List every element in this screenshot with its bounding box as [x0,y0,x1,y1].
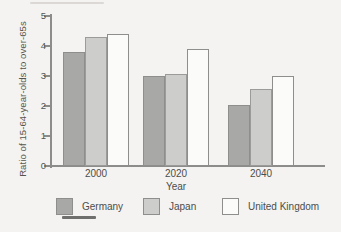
legend-swatch-germany [56,198,73,215]
x-axis-label: Year [154,181,198,192]
bar-germany-2020 [143,76,165,166]
bar-japan-2020 [165,74,187,166]
legend-swatch-japan [143,198,160,215]
bar-japan-2040 [250,89,272,166]
y-tick-label: 3 [28,71,46,81]
y-tick-label: 4 [28,41,46,51]
bar-united-kingdom-2020 [187,49,209,166]
y-tick-label: 1 [28,131,46,141]
bar-japan-2000 [85,37,107,166]
y-axis-label: Ratio of 15-64-year-olds to over-65s [17,21,28,177]
legend-swatch-united-kingdom [222,198,239,215]
scan-artifact-bottom [62,216,96,219]
x-tick-label-2000: 2000 [74,168,118,179]
bar-germany-2000 [63,52,85,166]
bar-united-kingdom-2040 [272,76,294,166]
y-tick-label: 0 [28,161,46,171]
y-tick-label: 2 [28,101,46,111]
bar-chart: Ratio of 15-64-year-olds to over-65s 012… [0,0,341,232]
bar-united-kingdom-2000 [107,34,129,166]
legend-label-germany: Germany [82,201,123,212]
x-tick-label-2020: 2020 [154,168,198,179]
y-tick-label: 5 [28,11,46,21]
legend-label-japan: Japan [169,201,196,212]
x-tick-label-2040: 2040 [239,168,283,179]
bar-germany-2040 [228,105,250,166]
scan-artifact-top [30,2,104,4]
y-axis-line [50,14,52,168]
legend-label-united-kingdom: United Kingdom [248,201,319,212]
